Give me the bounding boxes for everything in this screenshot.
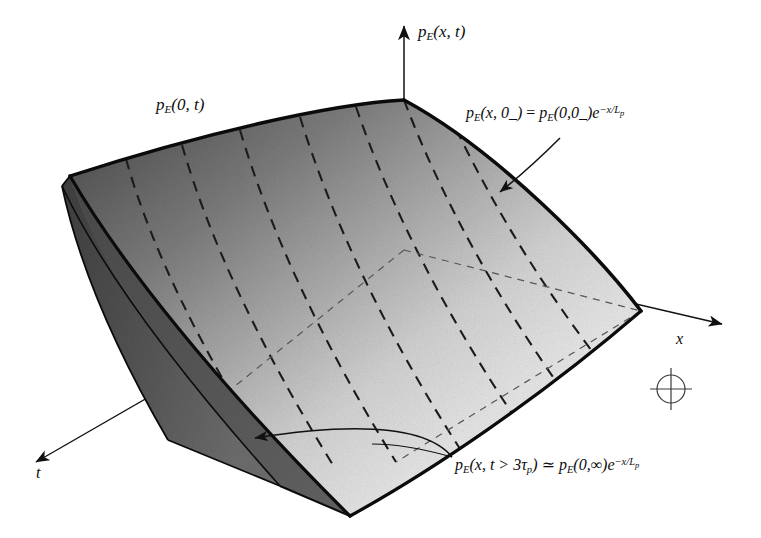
figure-3d-surface-plot: pE(x, t) pE(0, t) pE(x, 0_)=pE(0,0_)e−x/… <box>0 0 761 538</box>
steady-rhs-p: p <box>559 456 567 473</box>
topleft-args: (0, t) <box>171 95 204 114</box>
label-steady-state-distribution: pE(x, t > 3τp)≃pE(0,∞)e−x/Lp <box>455 455 639 475</box>
leader-arrow-initial <box>500 138 560 192</box>
registration-crosshair <box>650 368 692 410</box>
init-exp-sup-sub: p <box>620 108 624 118</box>
steady-lhs-p: p <box>455 456 463 473</box>
topleft-p: p <box>156 95 165 114</box>
vertical-axis-label: pE(x, t) <box>418 22 465 42</box>
init-equals: = <box>522 104 539 121</box>
label-boundary-condition: pE(0, t) <box>156 95 204 115</box>
steady-lhs-args-a: (x, t > 3 <box>469 456 521 473</box>
steady-rhs-args: (0,∞) <box>573 456 607 473</box>
init-rhs-args: (0,0_) <box>554 104 593 121</box>
steady-approx: ≃ <box>537 456 558 473</box>
steady-exp-sup-sub: p <box>635 460 639 470</box>
steady-exp-base: e <box>607 456 614 473</box>
x-axis-label: x <box>676 330 683 348</box>
vaxis-args: (x, t) <box>433 22 465 41</box>
init-lhs-p: p <box>466 104 474 121</box>
vaxis-p: p <box>418 22 427 41</box>
init-exp-sup: −x/Lp <box>599 104 624 115</box>
surface-plot-canvas <box>0 0 761 538</box>
init-lhs-args: (x, 0_) <box>480 104 522 121</box>
steady-exp-sup: −x/Lp <box>615 456 640 467</box>
t-axis-label: t <box>36 464 40 482</box>
label-initial-distribution: pE(x, 0_)=pE(0,0_)e−x/Lp <box>466 104 624 123</box>
